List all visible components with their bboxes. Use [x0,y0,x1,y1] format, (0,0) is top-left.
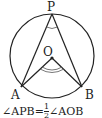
angle-arc-o-inner [42,67,62,70]
angle-arc-o-outer [40,69,64,73]
label-o: O [43,45,53,59]
label-b: B [85,88,94,102]
angle-arc-p [47,27,58,29]
circle-diagram: P O A B [0,0,102,118]
label-a: A [10,88,20,102]
label-p: P [47,0,55,14]
segment-ob [52,58,82,87]
caption-right: ∠AOB [49,105,83,118]
segment-pb [52,14,82,87]
caption-left: ∠APB= [2,105,44,118]
segment-oa [21,58,52,87]
angle-theorem-caption: ∠APB=12∠AOB [2,103,102,118]
